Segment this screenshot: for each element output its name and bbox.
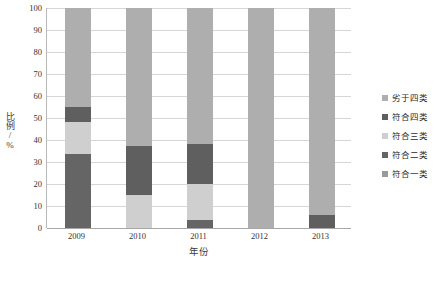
bar-stack[interactable] <box>309 8 335 228</box>
x-axis-title: 年份 <box>46 246 351 258</box>
legend-swatch-icon <box>382 133 388 139</box>
bar-group <box>230 8 291 228</box>
legend-swatch-icon <box>382 95 388 101</box>
bar-segment[interactable] <box>126 195 152 228</box>
legend-item[interactable]: 符合二类 <box>382 145 442 164</box>
gridline <box>47 228 351 229</box>
bar-group <box>169 8 230 228</box>
legend-swatch-icon <box>382 152 388 158</box>
bar-group <box>291 8 352 228</box>
y-tick-label: 90 <box>34 26 43 35</box>
legend-label: 符合二类 <box>392 150 428 160</box>
y-tick-label: 50 <box>34 114 43 123</box>
y-axis-tick-labels: 0102030405060708090100 <box>14 8 44 228</box>
x-tick-label: 2012 <box>251 230 268 242</box>
bar-segment[interactable] <box>309 215 335 228</box>
legend-swatch-icon <box>382 114 388 120</box>
bar-group <box>47 8 108 228</box>
bar-segment[interactable] <box>187 8 213 144</box>
y-tick-label: 100 <box>29 4 42 13</box>
bar-segment[interactable] <box>65 122 91 154</box>
bar-segment[interactable] <box>65 107 91 122</box>
bar-stack[interactable] <box>248 8 274 228</box>
x-tick-label: 2010 <box>129 230 146 242</box>
y-tick-label: 60 <box>34 92 43 101</box>
bar-segment[interactable] <box>187 144 213 184</box>
bars-layer <box>47 8 351 228</box>
bar-segment[interactable] <box>126 8 152 146</box>
bar-segment[interactable] <box>187 184 213 220</box>
legend-label: 劣于四类 <box>392 93 428 103</box>
bar-group <box>108 8 169 228</box>
bar-stack[interactable] <box>65 8 91 228</box>
x-tick-label: 2009 <box>68 230 85 242</box>
legend-item[interactable]: 符合三类 <box>382 126 442 145</box>
legend-label: 符合四类 <box>392 112 428 122</box>
y-tick-label: 80 <box>34 48 43 57</box>
x-tick-label: 2011 <box>190 230 207 242</box>
legend-item[interactable]: 符合四类 <box>382 107 442 126</box>
y-tick-label: 0 <box>38 224 42 233</box>
bar-segment[interactable] <box>248 8 274 228</box>
chart-legend: 劣于四类符合四类符合三类符合二类符合一类 <box>382 88 442 183</box>
y-tick-label: 20 <box>34 180 43 189</box>
bar-stack[interactable] <box>126 8 152 228</box>
bar-stack[interactable] <box>187 8 213 228</box>
x-axis-tick-labels: 20092010201120122013 <box>46 230 351 244</box>
legend-item[interactable]: 劣于四类 <box>382 88 442 107</box>
y-tick-label: 70 <box>34 70 43 79</box>
y-tick-label: 10 <box>34 202 43 211</box>
plot-area <box>46 8 351 228</box>
stacked-bar-chart: 比例/% 0102030405060708090100 200920102011… <box>0 0 444 287</box>
x-tick-label: 2013 <box>312 230 329 242</box>
legend-swatch-icon <box>382 171 388 177</box>
bar-segment[interactable] <box>65 154 91 228</box>
legend-label: 符合一类 <box>392 169 428 179</box>
bar-segment[interactable] <box>309 8 335 215</box>
y-tick-label: 40 <box>34 136 43 145</box>
y-tick-label: 30 <box>34 158 43 167</box>
bar-segment[interactable] <box>187 220 213 228</box>
legend-label: 符合三类 <box>392 131 428 141</box>
bar-segment[interactable] <box>65 8 91 107</box>
bar-segment[interactable] <box>126 146 152 195</box>
legend-item[interactable]: 符合一类 <box>382 164 442 183</box>
